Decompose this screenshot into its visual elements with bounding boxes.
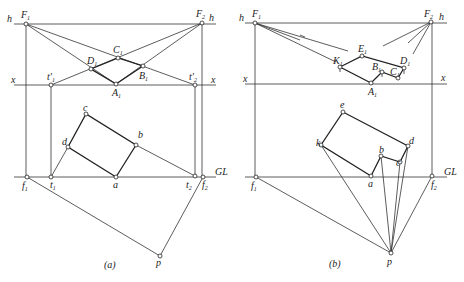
label-x-right: x [210, 74, 216, 85]
label-D1: D1 [86, 55, 97, 67]
label-h-left: h [239, 12, 244, 23]
vanishing-line [255, 23, 300, 40]
label-a: a [368, 178, 373, 189]
label-B1: B1 [139, 70, 148, 82]
label-gl: GL [215, 166, 228, 177]
point-f2 [430, 174, 434, 178]
label-F1: F1 [251, 8, 261, 20]
label-A1: A1 [111, 87, 121, 99]
label-a: a [113, 179, 118, 190]
label-c: c [83, 102, 88, 113]
label-b: b [379, 144, 384, 155]
label-f1: f1 [251, 180, 257, 192]
label-d: d [409, 135, 415, 146]
point-D1 [89, 67, 93, 71]
point-F2 [200, 21, 204, 25]
label-tp1: t'1 [47, 71, 55, 83]
label-gl: GL [444, 166, 457, 177]
point-t2 [193, 174, 197, 178]
vanishing-line [255, 23, 336, 62]
sight-line [321, 145, 391, 253]
point-e [341, 110, 345, 114]
point-F1 [24, 22, 28, 26]
plan-shape [321, 112, 408, 176]
point-tp2 [193, 83, 197, 87]
label-x-left: x [10, 74, 16, 85]
vanishing-line [26, 24, 116, 84]
label-h-right: h [209, 12, 214, 23]
sight-line [27, 177, 160, 256]
caption-b: (b) [329, 258, 341, 270]
point-b [134, 143, 138, 147]
vanishing-line [51, 23, 202, 85]
point-C1 [116, 56, 120, 60]
vanishing-line [408, 22, 431, 43]
label-A1: A1 [367, 86, 377, 98]
panel-a: h h x x GL F1 F2 C1 D1 B1 A1 t'1 t'2 c b… [7, 8, 228, 271]
point-B1 [141, 64, 145, 68]
sight-line [381, 156, 391, 253]
label-h-right: h [439, 11, 444, 22]
point-f1 [25, 175, 29, 179]
construction-line [51, 147, 68, 177]
point-D1 [402, 66, 406, 70]
label-t1: t1 [50, 179, 56, 191]
perspective-quad [91, 58, 143, 84]
label-C1: C1 [113, 44, 123, 56]
label-F1: F1 [20, 9, 30, 21]
label-x-right: x [440, 72, 446, 83]
label-c: c [396, 157, 401, 168]
label-B1: B1 [372, 61, 381, 73]
label-K1: K1 [332, 55, 343, 67]
point-p [389, 251, 393, 255]
label-e: e [340, 99, 345, 110]
label-f2: f2 [202, 179, 208, 191]
point-A1 [369, 81, 373, 85]
label-k: k [316, 137, 321, 148]
label-b: b [138, 129, 143, 140]
label-x-left: x [242, 73, 248, 84]
plan-rectangle [68, 114, 136, 177]
point-F2 [429, 20, 433, 24]
point-f1 [254, 175, 258, 179]
label-tp2: t'2 [189, 71, 197, 83]
caption-a: (a) [104, 259, 116, 271]
label-E1: E1 [357, 43, 367, 55]
label-F2: F2 [195, 8, 205, 20]
vanishing-line [255, 23, 348, 51]
perspective-diagram: h h x x GL F1 F2 C1 D1 B1 A1 t'1 t'2 c b… [0, 0, 464, 282]
panel-b: h h x x GL F1 F2 E1 K1 B1 D1 C1 A1 e k d… [239, 8, 457, 270]
label-C1: C1 [390, 66, 400, 78]
label-f1: f1 [22, 180, 28, 192]
sight-line [160, 177, 203, 256]
label-p: p [155, 257, 161, 268]
point-tp1 [49, 83, 53, 87]
label-f2: f2 [431, 179, 437, 191]
point-A1 [114, 82, 118, 86]
point-F1 [253, 21, 257, 25]
label-F2: F2 [423, 8, 433, 20]
label-p: p [386, 256, 392, 267]
label-t2: t2 [186, 179, 192, 191]
label-D1: D1 [399, 55, 410, 67]
construction-line [136, 145, 195, 176]
label-h-left: h [7, 13, 12, 24]
